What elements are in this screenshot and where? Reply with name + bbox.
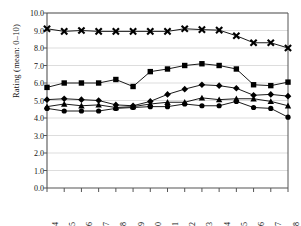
series-cross [44,26,291,51]
data-point-circle [148,104,153,109]
data-point-circle [285,115,290,120]
x-tick-label: 1991 [171,222,180,226]
data-point-square [148,69,153,74]
data-point-diamond [181,86,188,93]
data-point-square [96,80,101,85]
x-tick-label: 1984 [51,222,60,226]
data-point-circle [217,103,222,108]
data-point-diamond [78,96,85,103]
data-point-square [285,79,290,84]
data-point-square [234,66,239,71]
data-point-square [130,84,135,89]
x-tick-label: 1990 [154,222,163,226]
data-point-triangle [61,101,67,107]
data-point-circle [130,105,135,110]
data-point-diamond [164,91,171,98]
data-point-circle [113,106,118,111]
data-point-circle [234,99,239,104]
data-point-circle [182,101,187,106]
data-point-circle [165,104,170,109]
x-tick-label: 1992 [188,222,197,226]
x-tick-label: 1993 [205,222,214,226]
data-point-circle [268,106,273,111]
x-tick-label: 1988 [119,222,128,226]
data-point-circle [44,106,49,111]
x-tick-label: 1987 [102,222,111,226]
data-point-circle [251,105,256,110]
data-point-square [251,82,256,87]
data-point-circle [62,108,67,113]
x-tick-label: 1986 [85,222,94,226]
data-point-circle [199,103,204,108]
data-point-square [165,66,170,71]
data-point-square [182,63,187,68]
data-point-square [113,77,118,82]
x-tick-label: 1989 [137,222,146,226]
x-tick-label: 1997 [274,222,283,226]
x-tick-label: 1996 [257,222,266,226]
data-point-circle [79,108,84,113]
x-tick-label: 1998 [292,222,301,226]
data-point-square [62,80,67,85]
x-axis-tick-labels: 1984198519861987198819891990199119921993… [0,192,301,226]
data-point-diamond [285,93,292,100]
x-tick-label: 1995 [240,222,249,226]
data-point-diamond [44,96,51,103]
data-point-triangle [199,95,205,101]
chart-figure: Rating (mean: 0–10) 0.01.02.03.04.05.06.… [0,0,301,226]
data-point-square [44,85,49,90]
data-point-diamond [199,81,206,88]
x-tick-label: 1994 [223,222,232,226]
data-point-diamond [267,91,274,98]
data-point-circle [96,108,101,113]
data-point-square [216,63,221,68]
data-point-diamond [233,85,240,92]
data-point-square [79,80,84,85]
x-tick-label: 1985 [68,222,77,226]
data-point-square [268,83,273,88]
data-point-square [199,61,204,66]
